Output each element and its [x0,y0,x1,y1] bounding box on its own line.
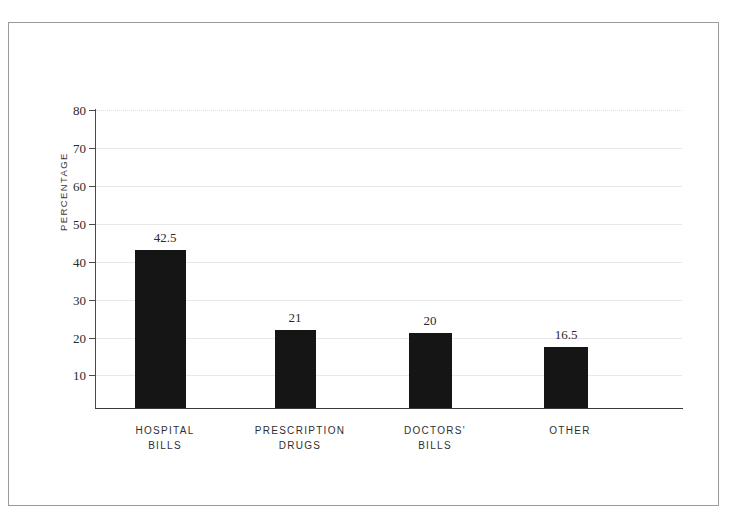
y-tick-labels: 80 70 60 50 40 30 20 10 [50,0,86,528]
ytick-label-10: 10 [56,369,86,382]
category-label-line: BILLS [95,439,235,454]
bar-hospital-bills [135,250,186,408]
gridline-60 [96,186,682,187]
ytick-mark-70 [89,148,96,149]
category-label-line: OTHER [500,424,640,439]
gridline-50 [96,224,682,225]
ytick-mark-40 [89,262,96,263]
bar-value-hospital-bills: 42.5 [110,231,220,244]
x-axis-line [95,408,683,409]
y-axis-title: PERCENTAGE [58,127,69,257]
ytick-mark-80 [89,110,96,111]
category-label-other: OTHER [500,424,640,439]
gridline-70 [96,148,682,149]
category-label-line: DRUGS [230,439,370,454]
category-label-hospital-bills: HOSPITAL BILLS [95,424,235,453]
ytick-label-30: 30 [56,294,86,307]
chart-figure: 80 70 60 50 40 30 20 10 PERCENTAGE 42.5 … [0,0,733,528]
plot-area [96,110,682,408]
ytick-mark-30 [89,300,96,301]
ytick-mark-60 [89,186,96,187]
ytick-label-80: 80 [56,104,86,117]
ytick-label-20: 20 [56,332,86,345]
y-axis-line [95,109,96,409]
ytick-mark-20 [89,338,96,339]
bar-value-prescription-drugs: 21 [240,311,350,324]
gridline-80 [96,110,682,112]
category-label-line: DOCTORS' [365,424,505,439]
category-label-prescription-drugs: PRESCRIPTION DRUGS [230,424,370,453]
category-label-line: HOSPITAL [95,424,235,439]
bar-value-other: 16.5 [511,328,621,341]
ytick-mark-50 [89,224,96,225]
bar-other [544,347,588,408]
ytick-mark-10 [89,375,96,376]
category-label-line: PRESCRIPTION [230,424,370,439]
category-label-doctors-bills: DOCTORS' BILLS [365,424,505,453]
bar-value-doctors-bills: 20 [375,314,485,327]
ytick-label-40: 40 [56,256,86,269]
bar-doctors-bills [409,333,452,408]
category-label-line: BILLS [365,439,505,454]
bar-prescription-drugs [275,330,316,408]
